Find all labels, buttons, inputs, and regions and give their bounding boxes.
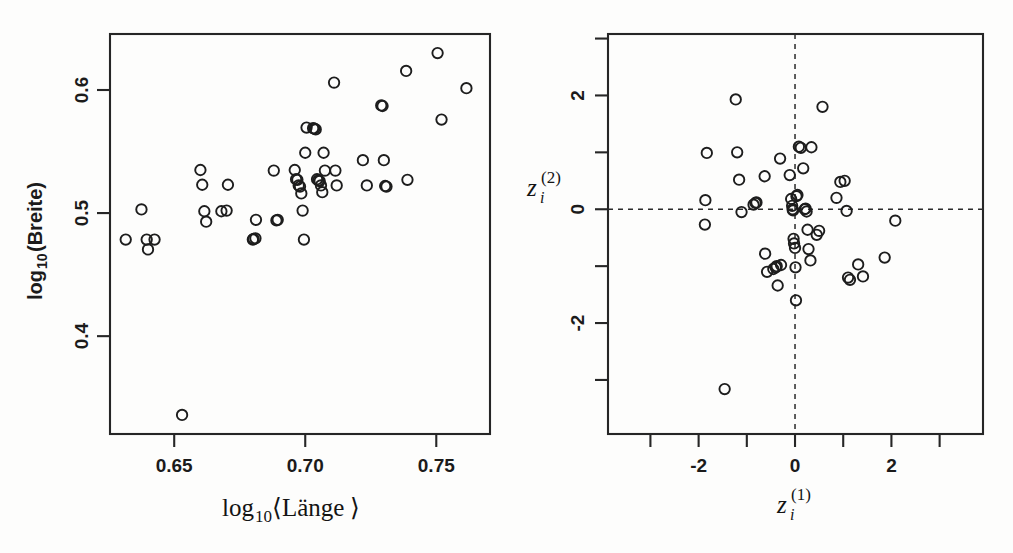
right-xtitle-z: z xyxy=(776,491,787,518)
right-xtitle-sub: i xyxy=(790,506,794,523)
data-point xyxy=(775,153,785,163)
data-point xyxy=(143,244,153,254)
data-point xyxy=(731,94,741,104)
left-xtitle-sub: 10 xyxy=(255,507,272,526)
left-ytitle-rest: (Breite) xyxy=(24,182,46,252)
left-xtitle-arg: Länge xyxy=(282,494,344,521)
data-point xyxy=(785,170,795,180)
right-x-tick-label: 2 xyxy=(886,455,897,476)
data-point xyxy=(331,180,341,190)
data-point xyxy=(401,66,411,76)
data-point xyxy=(700,219,710,229)
right-x-tick-label: 0 xyxy=(790,455,801,476)
data-point xyxy=(136,204,146,214)
data-point xyxy=(330,165,340,175)
data-point xyxy=(299,234,309,244)
data-point xyxy=(177,410,187,420)
left-y-axis-title: log 10 (Breite) xyxy=(24,182,50,300)
left-x-tick-label: 0.70 xyxy=(287,455,324,476)
data-point xyxy=(806,142,816,152)
right-ytitle-sub: i xyxy=(540,189,544,206)
data-point xyxy=(841,206,851,216)
left-x-axis-ticks xyxy=(174,434,436,447)
data-point xyxy=(379,155,389,165)
data-point xyxy=(436,114,446,124)
data-point xyxy=(329,77,339,87)
right-x-tick-labels: -202 xyxy=(690,455,897,476)
left-plot-frame xyxy=(110,34,490,434)
left-x-tick-label: 0.75 xyxy=(418,455,455,476)
left-x-tick-labels: 0.650.700.75 xyxy=(156,455,455,476)
data-point xyxy=(719,384,729,394)
right-ytitle-sup: (2) xyxy=(541,168,561,187)
left-x-tick-label: 0.65 xyxy=(156,455,193,476)
right-y-tick-labels: -202 xyxy=(567,90,588,331)
left-y-tick-label: 0.5 xyxy=(71,199,92,226)
data-point xyxy=(798,163,808,173)
data-point xyxy=(732,147,742,157)
right-xtitle-sup: (1) xyxy=(791,485,811,504)
data-point xyxy=(358,155,368,165)
right-plot-svg: -202 -202 z i (1) z i (2) xyxy=(505,0,1013,553)
left-xtitle-open: ⟨ xyxy=(272,494,282,521)
right-x-tick-label: -2 xyxy=(690,455,707,476)
data-point xyxy=(736,207,746,217)
data-point xyxy=(201,216,211,226)
left-y-tick-label: 0.4 xyxy=(71,323,92,350)
data-point xyxy=(197,180,207,190)
scatter-panel-right: -202 -202 z i (1) z i (2) xyxy=(505,0,1013,553)
right-y-tick-label: 0 xyxy=(567,204,588,215)
data-point xyxy=(734,174,744,184)
scatter-panel-left: 0.650.700.75 0.40.50.6 log 10 ⟨ Länge ⟩ … xyxy=(0,0,505,553)
data-point xyxy=(320,165,330,175)
data-point xyxy=(700,195,710,205)
data-point xyxy=(805,255,815,265)
left-plot-svg: 0.650.700.75 0.40.50.6 log 10 ⟨ Länge ⟩ … xyxy=(0,0,505,553)
data-point xyxy=(831,193,841,203)
data-point xyxy=(149,234,159,244)
right-y-tick-label: -2 xyxy=(567,315,588,332)
left-data-points xyxy=(121,48,472,420)
left-ytitle-sub: 10 xyxy=(34,253,50,269)
data-point xyxy=(223,180,233,190)
data-point xyxy=(362,180,372,190)
right-x-axis-title: z i (1) xyxy=(776,485,811,523)
left-xtitle-log: log xyxy=(222,494,254,521)
data-point xyxy=(432,48,442,58)
right-ytitle-z: z xyxy=(526,174,537,201)
data-point xyxy=(759,171,769,181)
data-point xyxy=(760,248,770,258)
data-point xyxy=(269,165,279,175)
left-y-tick-labels: 0.40.50.6 xyxy=(71,77,92,350)
data-point xyxy=(402,175,412,185)
data-point xyxy=(461,83,471,93)
figure-container: 0.650.700.75 0.40.50.6 log 10 ⟨ Länge ⟩ … xyxy=(0,0,1013,553)
data-point xyxy=(195,165,205,175)
data-point xyxy=(300,148,310,158)
data-point xyxy=(858,271,868,281)
data-point xyxy=(297,205,307,215)
data-point xyxy=(853,259,863,269)
left-xtitle-close: ⟩ xyxy=(350,494,360,521)
data-point xyxy=(791,295,801,305)
data-point xyxy=(121,234,131,244)
data-point xyxy=(803,244,813,254)
left-y-tick-label: 0.6 xyxy=(71,77,92,103)
left-ytitle-log: log xyxy=(24,270,46,300)
data-point xyxy=(772,280,782,290)
left-x-axis-title: log 10 ⟨ Länge ⟩ xyxy=(222,494,360,526)
data-point xyxy=(702,148,712,158)
right-x-axis-ticks xyxy=(650,434,939,447)
right-y-axis-ticks xyxy=(595,39,608,380)
left-y-axis-ticks xyxy=(97,90,110,336)
data-point xyxy=(817,102,827,112)
data-point xyxy=(199,206,209,216)
data-point xyxy=(318,148,328,158)
data-point xyxy=(890,215,900,225)
data-point xyxy=(251,215,261,225)
data-point xyxy=(879,252,889,262)
data-point xyxy=(317,187,327,197)
right-y-tick-label: 2 xyxy=(567,90,588,101)
right-y-axis-title: z i (2) xyxy=(526,168,561,206)
right-data-points xyxy=(700,94,901,394)
